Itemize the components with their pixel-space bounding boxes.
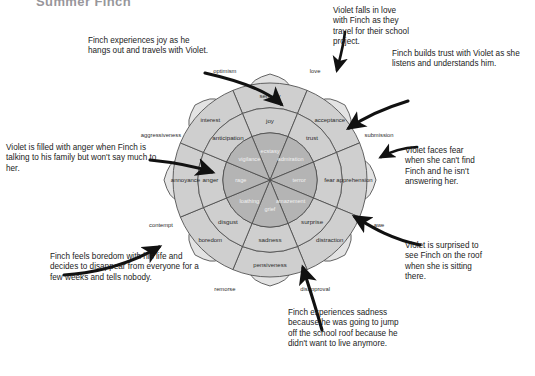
annotation-joy: Finch experiences joy as he hangs out an… <box>88 36 210 57</box>
emotion-amazement: amazement <box>276 198 306 204</box>
emotion-fear: fear <box>324 176 335 183</box>
dyad-disapproval: disapproval <box>300 286 330 292</box>
dyad-optimism: optimism <box>213 68 236 74</box>
annotation-boredom: Finch feels boredom with his life and de… <box>50 252 202 283</box>
emotion-surprise: surprise <box>301 218 324 225</box>
emotion-pensiveness: pensiveness <box>253 262 286 268</box>
annotation-love: Violet falls in love with Finch as they … <box>333 6 411 48</box>
annotation-sadness: Finch experiences sadness because he was… <box>288 308 408 350</box>
emotion-joy: joy <box>265 117 275 124</box>
dyad-aggressiveness: aggressiveness <box>141 132 181 138</box>
emotion-distraction: distraction <box>316 237 343 243</box>
emotion-vigilance: vigilance <box>239 156 261 162</box>
emotion-loathing: loathing <box>240 198 260 204</box>
annotation-anger: Violet is filled with anger when Finch i… <box>6 143 166 174</box>
emotion-trust: trust <box>306 134 318 141</box>
annotation-trust: Finch builds trust with Violet as she li… <box>392 49 532 70</box>
dyad-love: love <box>310 68 321 74</box>
emotion-grief: grief <box>265 206 276 212</box>
dyad-remorse: remorse <box>214 286 235 292</box>
emotion-anger: anger <box>203 176 219 183</box>
annotation-fear: Violet faces fear when she can't find Fi… <box>405 146 483 188</box>
emotion-sadness: sadness <box>258 236 281 243</box>
emotion-anticipation: anticipation <box>212 134 244 141</box>
emotion-disgust: disgust <box>218 218 238 225</box>
emotion-acceptance: acceptance <box>314 117 345 123</box>
emotion-interest: interest <box>200 117 220 123</box>
emotion-apprehension: apprehension <box>336 177 372 183</box>
emotion-terror: terror <box>292 177 306 183</box>
dyad-contempt: contempt <box>149 222 173 228</box>
emotion-rage: rage <box>235 177 246 183</box>
emotion-annoyance: annoyance <box>171 177 201 183</box>
emotion-boredom: boredom <box>198 237 222 243</box>
emotion-ecstasy: ecstasy <box>261 148 280 154</box>
dyad-submission: submission <box>365 132 394 138</box>
annotation-surprise: Violet is surprised to see Finch on the … <box>405 241 487 283</box>
diagram-canvas: Summer Finch ecstasyjoyserenityadmiratio… <box>0 0 535 376</box>
arrow-to-trust <box>349 101 408 128</box>
emotion-admiration: admiration <box>278 156 304 162</box>
